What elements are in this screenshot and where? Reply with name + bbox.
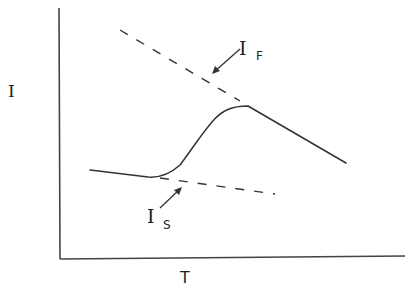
if-label-subscript: F (256, 50, 263, 62)
y-axis (59, 8, 60, 259)
is-label-main: I (147, 207, 155, 226)
if-label-main: I (239, 39, 247, 58)
x-axis-label: T (180, 270, 190, 286)
x-axis (60, 256, 405, 259)
y-axis-label: I (8, 83, 15, 100)
diagram-canvas (0, 0, 417, 290)
is-label-subscript: S (163, 219, 171, 231)
intensity-curve (90, 106, 346, 177)
if-arrow (214, 49, 240, 72)
